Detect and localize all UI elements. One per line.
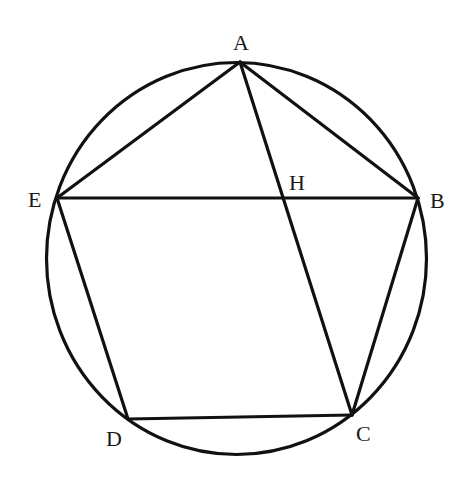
point-labels-group: A B C D E H	[28, 30, 445, 451]
label-E: E	[28, 187, 41, 212]
segment-CD	[128, 415, 352, 419]
label-A: A	[233, 30, 249, 55]
segment-EA	[57, 62, 240, 198]
circumcircle	[47, 63, 427, 455]
label-B: B	[430, 188, 445, 213]
label-H: H	[289, 170, 305, 195]
pentagon-circle-diagram: A B C D E H	[0, 0, 473, 489]
segment-AB	[240, 62, 418, 198]
label-D: D	[106, 426, 122, 451]
label-C: C	[356, 421, 371, 446]
segment-AC	[240, 62, 352, 415]
segments-group	[57, 62, 418, 419]
